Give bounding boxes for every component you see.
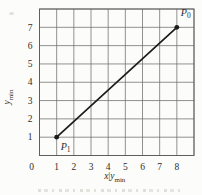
- x-tick-label: 7: [157, 162, 162, 172]
- figure-container: 0123456781234567x|yminyminP1P0: [0, 0, 202, 195]
- x-tick-label: 8: [174, 162, 179, 172]
- y-axis-title: ymin: [2, 89, 15, 106]
- y-tick-label: 1: [28, 132, 33, 142]
- x-tick-label: 0: [29, 162, 34, 172]
- y-tick-label: 2: [28, 114, 33, 124]
- y-tick-label: 7: [28, 23, 33, 33]
- data-point: [54, 135, 59, 140]
- y-tick-label: 6: [28, 41, 33, 51]
- x-tick-label: 5: [123, 162, 128, 172]
- scan-smudge: [9, 12, 14, 15]
- x-tick-label: 2: [71, 162, 76, 172]
- x-axis-title: x|ymin: [103, 171, 126, 184]
- x-tick-label: 6: [140, 162, 145, 172]
- y-tick-label: 3: [28, 96, 33, 106]
- y-tick-label: 4: [28, 77, 33, 87]
- line-chart-svg: 0123456781234567x|yminyminP1P0: [0, 0, 202, 195]
- x-tick-label: 1: [54, 162, 59, 172]
- y-tick-label: 5: [28, 59, 33, 69]
- data-point: [174, 25, 179, 30]
- x-tick-label: 3: [89, 162, 94, 172]
- cropped-caption-fragment: [38, 189, 184, 192]
- point-label: P1: [60, 141, 71, 155]
